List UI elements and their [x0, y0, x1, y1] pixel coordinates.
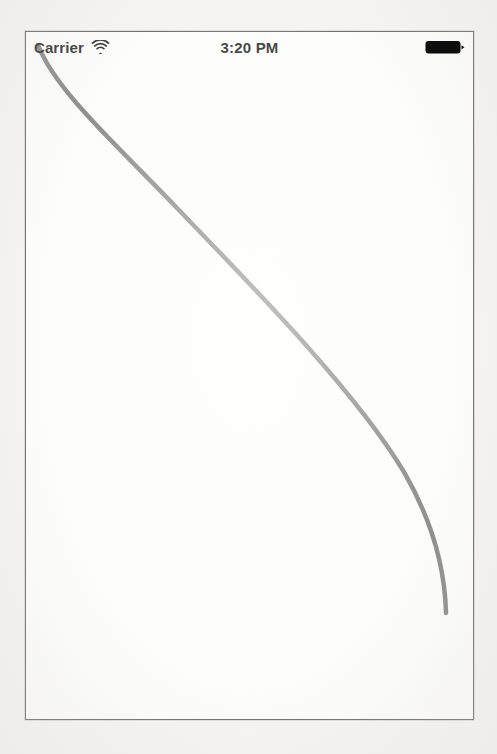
- battery-full-icon: [425, 40, 465, 55]
- device-screen-frame: Carrier 3:20 PM: [25, 31, 474, 720]
- wifi-icon: [91, 40, 110, 54]
- battery-indicator: [425, 40, 465, 55]
- carrier-label: Carrier: [34, 40, 84, 55]
- bezier-curve-canvas: [26, 32, 473, 719]
- bezier-curve-path: [38, 45, 446, 613]
- status-bar: Carrier 3:20 PM: [26, 32, 473, 62]
- drawing-canvas: [26, 32, 473, 719]
- carrier-group: Carrier: [34, 40, 154, 55]
- scanned-page-background: Carrier 3:20 PM: [0, 0, 497, 754]
